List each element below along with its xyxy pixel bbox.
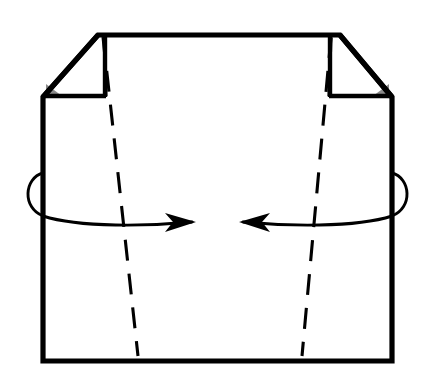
origami-diagram <box>0 0 432 385</box>
origami-figure-canvas <box>0 0 432 385</box>
